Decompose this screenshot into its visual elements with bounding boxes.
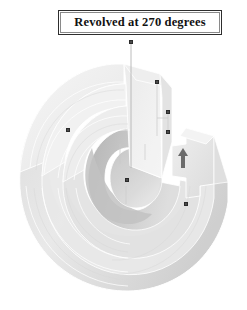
handle-axis-lower2[interactable] [166, 130, 170, 134]
handle-axis-lower[interactable] [166, 110, 170, 114]
handle-profile-right[interactable] [184, 202, 188, 206]
handle-profile-left[interactable] [66, 128, 70, 132]
handle-axis-top[interactable] [129, 40, 133, 44]
revolved-solid-drawing [0, 36, 247, 310]
caption-text: Revolved at 270 degrees [74, 16, 205, 29]
handle-axis-mid[interactable] [155, 80, 159, 84]
revolve-screenshot: Revolved at 270 degrees [0, 0, 247, 310]
caption-box: Revolved at 270 degrees [58, 10, 222, 35]
handle-profile-inner[interactable] [125, 178, 129, 182]
model-viewport[interactable] [0, 36, 247, 310]
